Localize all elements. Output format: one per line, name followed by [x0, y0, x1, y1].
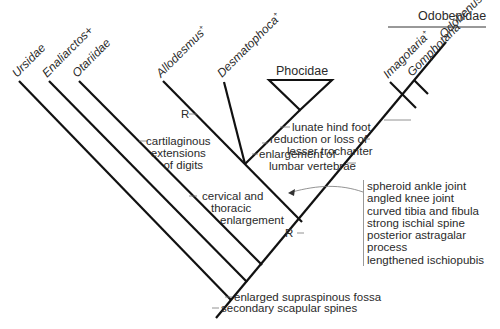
label-line: of digits: [146, 159, 211, 171]
label-line: extensions: [146, 147, 211, 159]
arrowhead-icon: [288, 189, 295, 196]
label-lumbar: enlargement of lumbar vertebrae: [259, 148, 356, 172]
label-root-2: secondary scapular spines: [221, 302, 357, 314]
box-item: strong ischial spine: [367, 217, 500, 229]
character-box-list: spheroid ankle joint angled knee joint c…: [363, 180, 500, 266]
gomphotaria-branch: [414, 80, 428, 94]
label-cartilaginous: cartilaginous extensions of digits: [146, 135, 211, 171]
desmatophoca-branch: [224, 82, 245, 164]
label-line: cervical and: [202, 190, 284, 202]
label-lunate: lunate hind foot: [292, 121, 371, 133]
box-item: spheroid ankle joint: [367, 180, 500, 192]
label-r-lower: R: [285, 227, 293, 239]
label-cervical: cervical and thoracic enlargement: [202, 190, 284, 226]
box-item: posterior astragalar process: [367, 229, 500, 254]
ursidae-branch: [19, 81, 231, 300]
group-odobenidae: Odobenidae: [418, 9, 486, 23]
label-line: thoracic: [202, 202, 284, 214]
curved-arrow-connector: [292, 186, 363, 192]
box-item: angled knee joint: [367, 192, 500, 204]
label-line: cartilaginous: [146, 135, 211, 147]
phocidae-triangle: [269, 80, 332, 110]
group-phocidae: Phocidae: [276, 64, 328, 78]
label-r-upper: R: [181, 108, 189, 120]
box-item: curved tibia and fibula: [367, 205, 500, 217]
label-line: enlargement of: [259, 148, 356, 160]
label-line: enlargement: [202, 214, 284, 226]
label-line: lumbar vertebrae: [259, 160, 356, 172]
box-item: lengthened ischiopubis: [367, 254, 500, 266]
label-line: reduction or loss of: [270, 133, 373, 145]
enaliarctos-branch: [49, 81, 247, 282]
